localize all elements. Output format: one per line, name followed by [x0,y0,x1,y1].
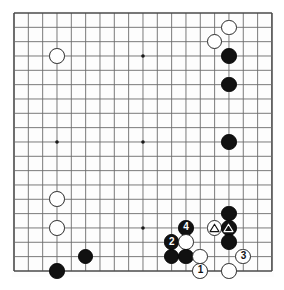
stone-black[interactable] [49,263,65,279]
stone-white-move-1[interactable]: 1 [192,263,208,279]
stone-move-number: 3 [241,251,246,261]
star-point [141,140,145,144]
stone-white[interactable] [221,20,237,36]
stone-white[interactable] [207,220,223,236]
stone-white[interactable] [178,234,194,250]
stone-black[interactable] [221,77,237,93]
stone-black[interactable] [178,249,194,265]
triangle-marker-icon [209,223,220,233]
stone-black[interactable] [221,220,237,236]
stone-white[interactable] [221,263,237,279]
stone-white[interactable] [49,48,65,64]
stone-black[interactable] [221,48,237,64]
star-point [55,140,59,144]
stone-black[interactable] [221,134,237,150]
stone-white[interactable] [49,191,65,207]
go-board-diagram: 4231 [0,0,284,290]
stone-black[interactable] [221,234,237,250]
stone-move-number: 1 [198,265,203,275]
stone-black[interactable] [221,206,237,222]
stone-black-move-4[interactable]: 4 [178,220,194,236]
go-board[interactable]: 4231 [12,11,274,277]
stone-move-number: 4 [183,222,188,232]
star-point [141,226,145,230]
triangle-marker-icon [223,223,234,233]
stone-move-number: 2 [169,237,174,247]
stone-white[interactable] [49,220,65,236]
star-point [141,54,145,58]
